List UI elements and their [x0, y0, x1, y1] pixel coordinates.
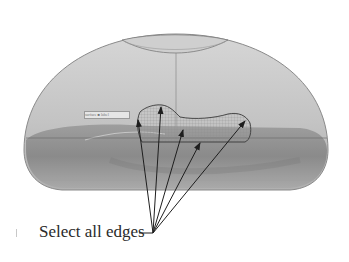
model-figure: surface ■ label Select all edges	[0, 0, 349, 262]
callout-label: Select all edges	[39, 222, 145, 242]
arrow-2	[153, 107, 161, 233]
arrow-3	[153, 130, 183, 233]
arrow-4	[153, 143, 200, 233]
arrow-1	[138, 120, 153, 233]
margin-mark	[16, 229, 17, 237]
arrow-5	[153, 121, 245, 233]
